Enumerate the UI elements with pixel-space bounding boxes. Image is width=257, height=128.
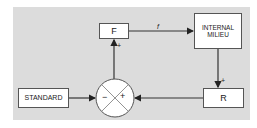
f-block: F [99,23,129,39]
internal-milieu-block: INTERNAL MILIEU [194,13,242,49]
r-block-label: R [220,93,227,103]
standard-block: STANDARD [18,88,69,108]
comparator-minus: − [102,92,107,102]
r-block: R [203,88,244,108]
comparator-to-f-sign: + [117,42,121,49]
milieu-to-r-sign: + [221,77,225,84]
f-block-label: F [111,26,117,36]
internal-milieu-line1: INTERNAL [202,24,234,31]
standard-label: STANDARD [25,94,63,102]
internal-milieu-line2: MILIEU [207,31,229,38]
f-edge-label: f [157,23,159,30]
comparator-plus: + [120,91,125,101]
